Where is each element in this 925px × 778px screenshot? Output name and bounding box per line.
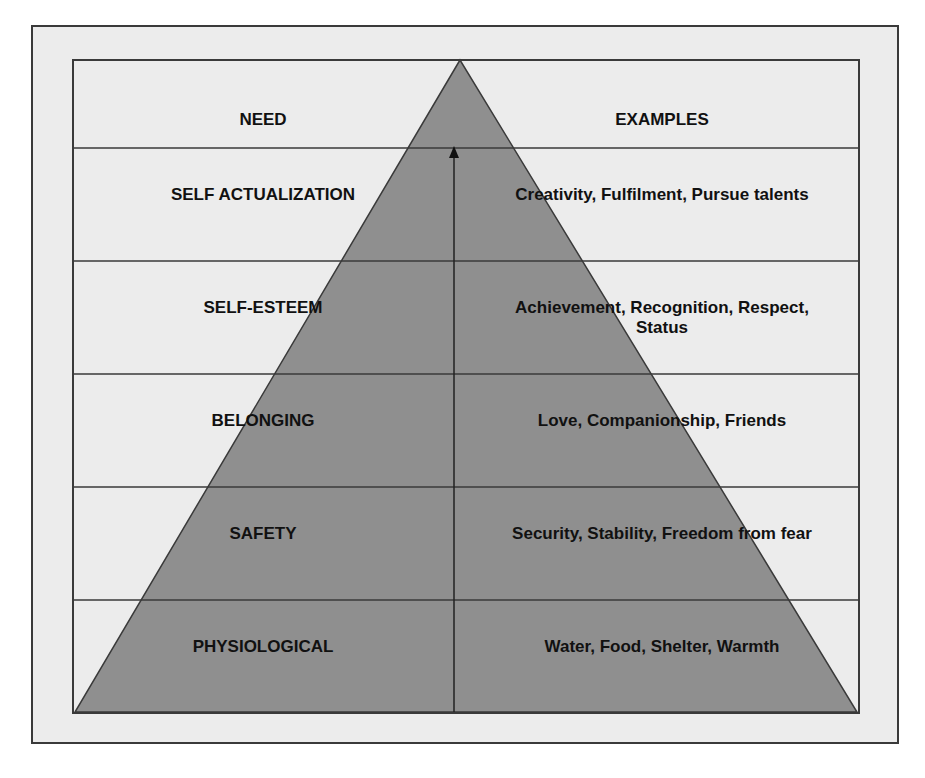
examples-safety: Security, Stability, Freedom from fear	[465, 524, 859, 544]
need-safety: SAFETY	[73, 524, 453, 544]
examples-belonging: Love, Companionship, Friends	[465, 411, 859, 431]
need-physiological: PHYSIOLOGICAL	[73, 637, 453, 657]
need-self-esteem: SELF-ESTEEM	[73, 298, 453, 318]
need-belonging: BELONGING	[73, 411, 453, 431]
header-examples: EXAMPLES	[465, 110, 859, 130]
need-self-actualization: SELF ACTUALIZATION	[73, 185, 453, 205]
examples-physiological: Water, Food, Shelter, Warmth	[465, 637, 859, 657]
examples-self-actualization: Creativity, Fulfilment, Pursue talents	[465, 185, 859, 205]
examples-self-esteem: Achievement, Recognition, Respect, Statu…	[497, 298, 827, 338]
header-need: NEED	[73, 110, 453, 130]
